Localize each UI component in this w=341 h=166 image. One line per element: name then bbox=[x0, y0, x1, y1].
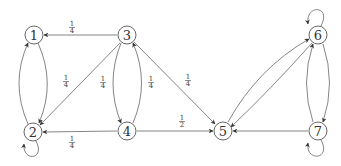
label-4-3: 1 4 bbox=[148, 75, 154, 90]
label-4-2: 1 4 bbox=[69, 135, 75, 150]
node-2: 2 bbox=[24, 123, 42, 141]
edge-7-6 bbox=[307, 44, 314, 122]
edge-3-5 bbox=[134, 42, 215, 124]
edge-7-7 bbox=[308, 140, 324, 156]
graph-canvas: 1 4 1 4 1 4 1 4 1 4 1 4 1 bbox=[0, 0, 341, 166]
svg-text:3: 3 bbox=[123, 28, 131, 43]
svg-text:1: 1 bbox=[30, 28, 38, 43]
svg-text:4: 4 bbox=[70, 27, 75, 35]
node-4: 4 bbox=[118, 122, 136, 140]
edge-4-3 bbox=[133, 43, 142, 123]
svg-text:2: 2 bbox=[29, 125, 37, 140]
svg-text:4: 4 bbox=[64, 81, 69, 89]
node-1: 1 bbox=[25, 26, 43, 44]
node-6: 6 bbox=[309, 26, 327, 44]
svg-text:6: 6 bbox=[314, 28, 322, 43]
svg-text:7: 7 bbox=[314, 124, 322, 139]
label-3-5: 1 4 bbox=[185, 73, 191, 88]
label-3-2: 1 4 bbox=[63, 74, 69, 89]
label-3-1: 1 4 bbox=[69, 20, 75, 35]
node-7: 7 bbox=[309, 122, 327, 140]
label-3-4: 1 4 bbox=[100, 75, 106, 90]
edge-6-5 bbox=[231, 43, 312, 127]
svg-text:4: 4 bbox=[70, 142, 75, 150]
label-4-5: 1 2 bbox=[179, 114, 185, 129]
svg-text:4: 4 bbox=[149, 82, 154, 90]
edge-4-2 bbox=[43, 131, 117, 132]
edge-6-6 bbox=[308, 10, 324, 26]
edge-3-4 bbox=[113, 43, 121, 123]
node-5: 5 bbox=[214, 122, 232, 140]
edge-6-7 bbox=[323, 44, 330, 122]
svg-text:4: 4 bbox=[186, 80, 191, 88]
edge-2-1 bbox=[19, 43, 28, 124]
edge-3-2 bbox=[40, 43, 120, 125]
svg-text:4: 4 bbox=[101, 82, 106, 90]
edge-5-6 bbox=[228, 39, 309, 122]
svg-text:2: 2 bbox=[180, 121, 184, 129]
svg-text:4: 4 bbox=[123, 124, 131, 139]
node-3: 3 bbox=[118, 26, 136, 44]
edge-2-2 bbox=[24, 141, 39, 156]
edge-1-2 bbox=[38, 43, 47, 123]
svg-text:5: 5 bbox=[219, 124, 227, 139]
